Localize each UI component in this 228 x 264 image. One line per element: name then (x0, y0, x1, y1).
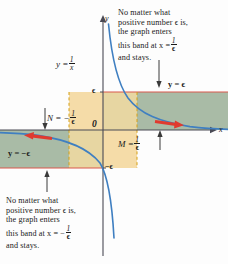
annotation-bottom: No matter what positive number ϵ is, the… (6, 196, 112, 251)
annotation-top-fraction-denominator: ϵ (171, 44, 177, 53)
y-axis-label: y (105, 14, 109, 23)
upper-band-label-text: y = ϵ (168, 79, 185, 89)
annotation-bottom-line1: No matter what (6, 196, 112, 206)
annotation-top-line2: positive number ϵ is, (118, 18, 222, 28)
curve-equation-label: y =1x (56, 56, 75, 72)
N-value-label: N = −1ϵ (47, 110, 76, 126)
annotation-top-line5: and stays. (118, 53, 222, 63)
M-value-text: M = (118, 139, 134, 149)
pointer-arrow-bottom-to-band (44, 170, 49, 192)
overlap-upper-right (103, 92, 137, 130)
annotation-top-line4-text: this band at x = (118, 41, 170, 50)
y-tick-label-epsilon: ϵ (92, 86, 95, 95)
annotation-bottom-line4-text: this band at x = − (6, 229, 65, 238)
annotation-bottom-fraction-denominator: ϵ (66, 232, 72, 241)
curve-equation-text: y = (56, 59, 68, 69)
origin-label: 0 (92, 119, 97, 130)
annotation-top-line3: the graph enters (118, 27, 222, 37)
annotation-top: No matter what positive number ϵ is, the… (118, 8, 222, 63)
annotation-top-fraction-numerator: 1 (171, 37, 177, 44)
annotation-bottom-line5: and stays. (6, 241, 112, 251)
annotation-bottom-line3: the graph enters (6, 215, 112, 225)
curve-equation-fraction: 1x (69, 56, 75, 72)
N-value-denominator: ϵ (70, 117, 76, 126)
M-value-fraction: 1ϵ (134, 136, 140, 152)
upper-band-label: y = ϵ (168, 79, 185, 90)
x-axis-label: x (219, 125, 223, 134)
N-value-text: N = − (47, 113, 70, 123)
annotation-bottom-line2: positive number ϵ is, (6, 206, 112, 216)
annotation-top-fraction: 1ϵ (171, 37, 177, 53)
figure-canvas: No matter what positive number ϵ is, the… (0, 0, 228, 264)
lower-band-label-text: y = −ϵ (8, 148, 30, 158)
M-value-label: M =1ϵ (118, 136, 141, 152)
y-tick-label-neg-epsilon: −ϵ (105, 162, 113, 171)
pointer-arrow-right-up-to-band (157, 130, 162, 150)
annotation-bottom-line4: this band at x = −1ϵ (6, 225, 112, 241)
annotation-bottom-fraction-numerator: 1 (66, 225, 72, 232)
M-value-numerator: 1 (134, 136, 140, 143)
curve-equation-numerator: 1 (69, 56, 75, 63)
overlap-lower-left (69, 130, 103, 168)
N-value-numerator: 1 (70, 110, 76, 117)
annotation-top-line1: No matter what (118, 8, 222, 18)
curve-equation-denominator: x (69, 63, 75, 72)
pointer-arrow-top-to-band (156, 60, 161, 88)
lower-band-label: y = −ϵ (8, 148, 30, 159)
N-value-fraction: 1ϵ (70, 110, 76, 126)
annotation-top-line4: this band at x =1ϵ (118, 37, 222, 53)
annotation-bottom-fraction: 1ϵ (66, 225, 72, 241)
M-value-denominator: ϵ (134, 143, 140, 152)
